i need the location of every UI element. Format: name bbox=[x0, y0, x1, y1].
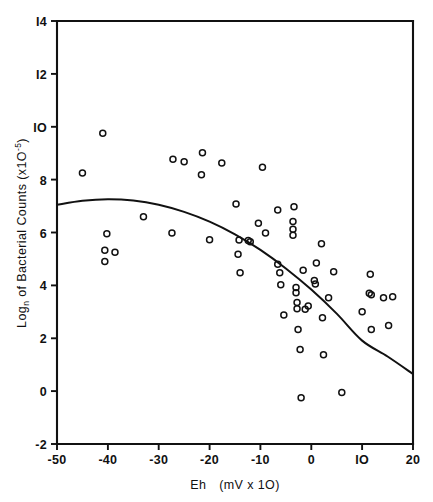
data-point-group bbox=[79, 130, 395, 400]
fit-curve bbox=[57, 199, 413, 374]
y-tick-label: 6 bbox=[40, 227, 47, 241]
data-point bbox=[278, 282, 284, 288]
data-point bbox=[291, 204, 297, 210]
data-point bbox=[298, 395, 304, 401]
data-point bbox=[318, 241, 324, 247]
data-point bbox=[102, 247, 108, 253]
data-point bbox=[320, 352, 326, 358]
data-point bbox=[313, 260, 319, 266]
data-point bbox=[294, 300, 300, 306]
x-tick-label: -10 bbox=[251, 453, 270, 467]
data-point bbox=[140, 214, 146, 220]
x-tick-label: 20 bbox=[406, 453, 421, 467]
data-point bbox=[207, 237, 213, 243]
data-point bbox=[331, 269, 337, 275]
y-tick-label: 2 bbox=[40, 332, 47, 346]
scatter-plot: I4 I2 IO 8 6 4 2 0 -2 -50 -40 -30 -20 -1… bbox=[0, 0, 433, 502]
figure: I4 I2 IO 8 6 4 2 0 -2 -50 -40 -30 -20 -1… bbox=[0, 0, 433, 502]
y-tick-label: I2 bbox=[36, 68, 47, 82]
y-axis-label-sup: -5 bbox=[13, 143, 23, 151]
data-point bbox=[255, 220, 261, 226]
x-tick-label: -40 bbox=[98, 453, 117, 467]
svg-text:Logn of Bacterial Counts (x1O-: Logn of Bacterial Counts (x1O-5) bbox=[13, 138, 31, 328]
data-point bbox=[294, 306, 300, 312]
data-point bbox=[102, 259, 108, 265]
data-point bbox=[219, 160, 225, 166]
data-point bbox=[367, 271, 373, 277]
x-tick-label: -20 bbox=[200, 453, 219, 467]
data-point bbox=[181, 159, 187, 165]
data-point bbox=[104, 231, 110, 237]
data-point bbox=[359, 309, 365, 315]
plot-frame bbox=[57, 21, 413, 444]
y-axis-label-main-a: Log bbox=[15, 306, 29, 328]
data-point bbox=[386, 323, 392, 329]
data-point bbox=[170, 156, 176, 162]
svg-text:Eh (mV x 1O): Eh (mV x 1O) bbox=[190, 478, 280, 492]
x-tick-label: IO bbox=[355, 453, 369, 467]
x-axis-label-a: Eh bbox=[190, 478, 206, 492]
data-point bbox=[339, 389, 345, 395]
data-point bbox=[281, 312, 287, 318]
data-point bbox=[263, 230, 269, 236]
x-axis-label-b: (mV x 1O) bbox=[219, 478, 280, 492]
y-tick-label: 0 bbox=[40, 385, 47, 399]
y-tick-label: -2 bbox=[35, 438, 47, 452]
data-point bbox=[235, 251, 241, 257]
data-point bbox=[169, 230, 175, 236]
y-axis-label: Logn of Bacterial Counts (x1O-5) bbox=[13, 138, 31, 328]
x-tick-label: 0 bbox=[308, 453, 315, 467]
data-point bbox=[79, 170, 85, 176]
x-tick-label: -30 bbox=[149, 453, 168, 467]
data-point bbox=[275, 207, 281, 213]
data-point bbox=[368, 327, 374, 333]
data-point bbox=[233, 201, 239, 207]
data-point bbox=[381, 295, 387, 301]
data-point bbox=[300, 267, 306, 273]
y-tick-label: 8 bbox=[40, 174, 47, 188]
y-tick-labels: I4 I2 IO 8 6 4 2 0 -2 bbox=[33, 15, 47, 452]
x-axis-label: Eh (mV x 1O) bbox=[190, 478, 280, 492]
y-tick-label: 4 bbox=[40, 279, 47, 293]
y-axis-label-main-c: ) bbox=[15, 138, 29, 143]
y-tick-label: I4 bbox=[36, 15, 47, 29]
data-point bbox=[237, 270, 243, 276]
data-point bbox=[295, 327, 301, 333]
data-point bbox=[326, 295, 332, 301]
data-point bbox=[277, 270, 283, 276]
x-tick-label: -50 bbox=[48, 453, 67, 467]
data-point bbox=[319, 315, 325, 321]
y-axis-label-main-b: of Bacterial Counts (x1O bbox=[15, 151, 29, 301]
x-tick-labels: -50 -40 -30 -20 -10 0 IO 20 bbox=[48, 453, 421, 467]
data-point bbox=[290, 218, 296, 224]
data-point bbox=[112, 249, 118, 255]
data-point bbox=[199, 150, 205, 156]
y-tick-label: IO bbox=[33, 121, 47, 135]
data-point bbox=[198, 172, 204, 178]
data-point bbox=[297, 347, 303, 353]
data-point bbox=[259, 164, 265, 170]
data-point bbox=[100, 130, 106, 136]
data-point bbox=[390, 294, 396, 300]
